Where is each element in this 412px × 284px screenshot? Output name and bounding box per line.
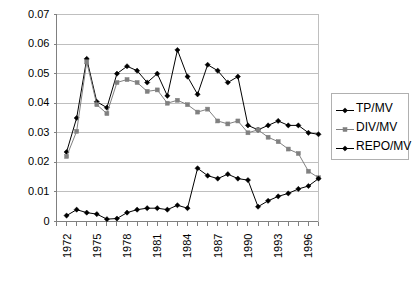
chart-legend: TP/MV DIV/MV REPO/MV — [331, 93, 409, 160]
x-axis-ticks — [57, 222, 319, 226]
y-tick-label: 0.01 — [0, 186, 50, 197]
x-tick-label: 1987 — [213, 233, 224, 257]
legend-item-2[interactable]: REPO/MV — [335, 136, 404, 155]
legend-label-0: TP/MV — [355, 102, 393, 114]
x-tick-label: 1978 — [122, 233, 133, 257]
series-repo-mv — [64, 166, 321, 222]
x-tick-label: 1981 — [152, 233, 163, 257]
series-tp-mv — [64, 47, 321, 154]
legend-item-1[interactable]: DIV/MV — [335, 117, 404, 136]
axes — [57, 15, 319, 222]
y-tick-label: 0.06 — [0, 38, 50, 49]
gridlines — [57, 15, 319, 222]
y-tick-label: 0.07 — [0, 9, 50, 20]
chart-container: 00.010.020.030.040.050.060.07 1972197519… — [0, 0, 412, 284]
x-tick-label: 1996 — [303, 233, 314, 257]
y-tick-label: 0.05 — [0, 68, 50, 79]
y-tick-label: 0.03 — [0, 127, 50, 138]
y-tick-label: 0.04 — [0, 97, 50, 108]
x-tick-label: 1975 — [92, 233, 103, 257]
x-tick-label: 1993 — [273, 233, 284, 257]
y-tick-label: 0 — [0, 216, 50, 227]
legend-label-1: DIV/MV — [355, 121, 397, 133]
x-tick-label: 1990 — [243, 233, 254, 257]
x-tick-label: 1984 — [182, 233, 193, 257]
legend-label-2: REPO/MV — [355, 140, 411, 152]
legend-marker-icon-1 — [335, 121, 355, 132]
legend-marker-icon-0 — [335, 102, 355, 113]
legend-item-0[interactable]: TP/MV — [335, 98, 404, 117]
series-div-mv — [65, 60, 321, 180]
x-tick-label: 1972 — [62, 233, 73, 257]
legend-marker-icon-2 — [335, 140, 355, 151]
y-tick-label: 0.02 — [0, 156, 50, 167]
